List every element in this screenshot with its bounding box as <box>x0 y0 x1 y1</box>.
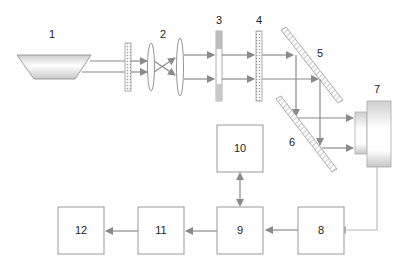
beam-cross <box>154 58 175 72</box>
label-4: 4 <box>256 14 262 26</box>
aperture-plate-3: 3 <box>216 14 222 101</box>
block-12: 12 <box>58 207 104 254</box>
block-8: 8 <box>298 207 344 254</box>
mirror-5: 5 <box>281 27 343 103</box>
block-11: 11 <box>138 207 184 254</box>
label-5: 5 <box>317 47 323 59</box>
beam-cross <box>154 61 175 75</box>
arrowhead-down <box>236 199 244 207</box>
label-8: 8 <box>318 224 324 236</box>
dotted-plate <box>125 43 131 91</box>
lens-left <box>148 43 155 91</box>
label-6: 6 <box>289 136 295 148</box>
label-7: 7 <box>374 83 380 95</box>
label-10: 10 <box>234 142 246 154</box>
detector-7: 7 <box>355 83 391 167</box>
mirror-6: 6 <box>276 96 337 172</box>
optical-diagram: 1 2 3 4 5 6 <box>0 0 403 269</box>
label-12: 12 <box>75 224 87 236</box>
arrowhead-up <box>236 172 244 180</box>
label-9: 9 <box>237 224 243 236</box>
lens-right <box>177 38 184 96</box>
light-source-1: 1 <box>17 28 91 79</box>
label-2: 2 <box>160 28 166 40</box>
label-1: 1 <box>49 28 55 40</box>
block-10: 10 <box>217 125 263 172</box>
label-11: 11 <box>155 224 166 236</box>
block-9: 9 <box>217 207 263 254</box>
label-3: 3 <box>216 14 222 26</box>
filter-plate-4: 4 <box>256 14 262 101</box>
lens-pair-2: 2 <box>148 28 184 96</box>
connector-7-8 <box>346 167 377 230</box>
